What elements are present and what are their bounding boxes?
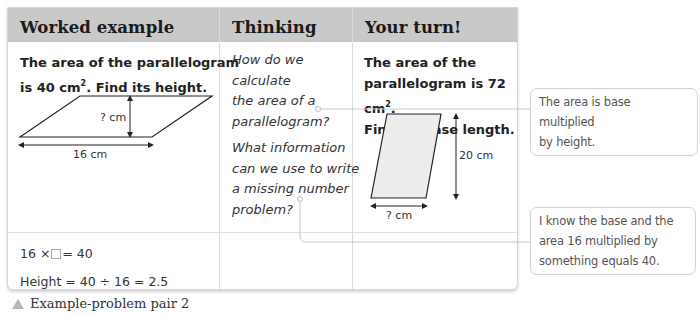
question-line: The area of the parallelogram [20,52,239,73]
thinking-question-1: How do we calculate the area of a parall… [232,50,329,132]
figure-caption: Example-problem pair 2 [12,296,189,311]
callout-line: The area is base multiplied [539,92,689,132]
question-line: parallelogram is 72 cm2. [364,73,517,119]
question-line: Find its base length. [364,119,517,140]
question-line: is 40 cm2. Find its height. [20,73,239,98]
column-divider [219,8,220,289]
thinking-line: What information [232,138,359,159]
thinking-line: can we use to write [232,159,359,180]
working-line-1: 16 ×= 40 [20,246,93,261]
header-your-turn: Your turn! [353,8,518,42]
base-label: 16 cm [73,148,107,161]
equation-left: 16 × [20,246,50,261]
height-label: 20 cm [459,149,493,162]
thinking-line: problem? [232,200,359,221]
missing-number-box [51,249,61,259]
callout-line: something equals 40. [539,251,687,271]
row-divider [8,232,517,233]
callout-bubble-2: I know the base and the area 16 multipli… [530,207,696,275]
header-worked-example: Worked example [8,8,219,42]
thinking-line: a missing number [232,179,359,200]
question-area: parallelogram is 72 cm [364,76,506,116]
callout-bubble-1: The area is base multiplied by height. [530,88,698,156]
callout-line: I know the base and the [539,211,687,231]
thinking-line: How do we [232,50,329,71]
triangle-icon [12,299,24,309]
question-line: The area of the [364,52,517,73]
base-label: ? cm [386,209,412,222]
question-area: is 40 cm [20,80,81,95]
equation-right: = 40 [62,246,92,261]
header-thinking: Thinking [220,8,352,42]
thinking-line: parallelogram? [232,112,329,133]
worked-example-question: The area of the parallelogram is 40 cm2.… [20,52,239,98]
callout-line: area 16 multiplied by [539,231,687,251]
example-problem-table: Worked example Thinking Your turn! The a… [7,7,518,290]
thinking-question-2: What information can we use to write a m… [232,138,359,220]
working-line-2: Height = 40 ÷ 16 = 2.5 [20,274,168,289]
your-turn-question: The area of the parallelogram is 72 cm2.… [364,52,517,140]
caption-text: Example-problem pair 2 [30,296,189,311]
callout-line: by height. [539,132,689,152]
question-tail: . Find its height. [86,80,207,95]
thinking-line: the area of a [232,91,329,112]
question-tail: . [391,101,396,116]
height-label: ? cm [100,111,126,124]
thinking-line: calculate [232,71,329,92]
